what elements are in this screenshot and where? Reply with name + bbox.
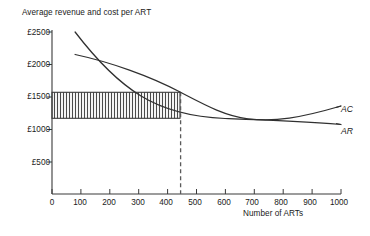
x-tick-label-600: 600 xyxy=(210,198,238,207)
y-tick-label-1000: £1000 xyxy=(8,125,50,134)
x-tick-label-500: 500 xyxy=(181,198,209,207)
y-tick-label-1500: £1500 xyxy=(8,92,50,101)
chart-axis-title-x: Number of ARTs xyxy=(243,209,303,218)
series-label-ac: AC xyxy=(341,104,353,114)
x-tick-label-900: 900 xyxy=(296,198,324,207)
x-tick-label-0: 0 xyxy=(38,198,66,207)
series-label-ar: AR xyxy=(341,126,353,136)
y-tick-label-2500: £2500 xyxy=(8,28,50,37)
x-tick-label-200: 200 xyxy=(95,198,123,207)
y-tick-label-500: £500 xyxy=(8,158,50,167)
y-tick-label-2000: £2000 xyxy=(8,60,50,69)
x-tick-label-400: 400 xyxy=(152,198,180,207)
x-tick-label-700: 700 xyxy=(238,198,266,207)
chart-figure: Average revenue and cost per ART Number … xyxy=(0,0,370,236)
x-tick-label-100: 100 xyxy=(66,198,94,207)
x-tick-label-300: 300 xyxy=(124,198,152,207)
x-tick-label-800: 800 xyxy=(267,198,295,207)
x-tick-label-1000: 1000 xyxy=(324,198,354,207)
x-axis-ticks xyxy=(52,189,341,194)
chart-axis-title-y: Average revenue and cost per ART xyxy=(22,8,151,17)
